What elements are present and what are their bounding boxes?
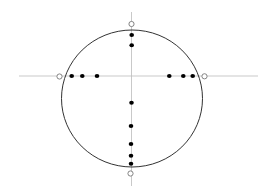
points-group xyxy=(69,33,195,166)
open-marker-top xyxy=(129,21,134,26)
data-point-bottom-vertical xyxy=(129,101,134,105)
data-point-left-horizontal xyxy=(95,74,100,78)
data-point-bottom-vertical xyxy=(129,154,134,158)
data-point-bottom-vertical xyxy=(129,142,134,146)
data-point-right-horizontal xyxy=(167,74,172,78)
data-point-right-horizontal xyxy=(190,74,195,78)
open-marker-left xyxy=(57,74,62,79)
data-point-left-horizontal xyxy=(80,74,85,78)
data-point-bottom-vertical xyxy=(129,124,134,128)
data-point-right-horizontal xyxy=(181,74,186,78)
diagram-canvas xyxy=(0,0,269,195)
data-point-top-vertical xyxy=(129,43,134,47)
data-point-top-vertical xyxy=(129,33,134,37)
data-point-left-horizontal xyxy=(69,74,74,78)
open-marker-bottom xyxy=(128,171,133,176)
open-marker-right xyxy=(202,74,207,79)
data-point-bottom-vertical xyxy=(129,162,134,166)
outer-circle xyxy=(62,30,203,167)
